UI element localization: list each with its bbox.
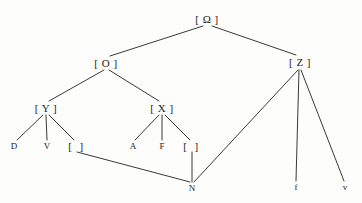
tree-node-f_low: f bbox=[295, 183, 298, 192]
tree-edge-x-gap2 bbox=[165, 115, 190, 140]
tree-edge-y-d bbox=[17, 115, 43, 140]
tree-edge-y-v bbox=[46, 115, 47, 140]
tree-node-f_cap: F bbox=[159, 142, 164, 151]
tree-node-v: V bbox=[44, 142, 51, 151]
tree-node-gap1: [ ] bbox=[68, 141, 86, 152]
tree-node-omega: [ Ω ] bbox=[195, 14, 219, 25]
tree-edge-z-n bbox=[194, 70, 298, 182]
tree-edge-o-y bbox=[49, 70, 104, 101]
tree-edge-omega-z bbox=[212, 26, 296, 55]
tree-node-v_low: v bbox=[343, 183, 348, 192]
tree-edge-x-a bbox=[135, 115, 159, 140]
tree-node-n: N bbox=[189, 184, 196, 193]
tree-node-y: [ Y ] bbox=[35, 103, 57, 114]
tree-node-d: D bbox=[11, 142, 18, 151]
tree-edge-y-gap1 bbox=[49, 115, 74, 140]
tree-edge-omega-o bbox=[110, 26, 203, 56]
tree-edge-gap1-n bbox=[77, 152, 190, 182]
syntax-tree-diagram: [ Ω ][ O ][ Z ][ Y ][ X ]DV[ ]AF[ ]Nfv bbox=[0, 0, 362, 203]
tree-node-a: A bbox=[130, 142, 137, 151]
tree-edges bbox=[17, 26, 344, 182]
tree-edge-o-x bbox=[109, 70, 159, 101]
tree-node-x: [ X ] bbox=[150, 103, 173, 114]
tree-node-z: [ Z ] bbox=[289, 57, 311, 68]
tree-edge-z-flow bbox=[296, 70, 299, 181]
tree-node-gap2: [ ] bbox=[183, 141, 201, 152]
tree-node-o: [ O ] bbox=[94, 58, 117, 69]
tree-edge-z-vlow bbox=[301, 70, 344, 181]
